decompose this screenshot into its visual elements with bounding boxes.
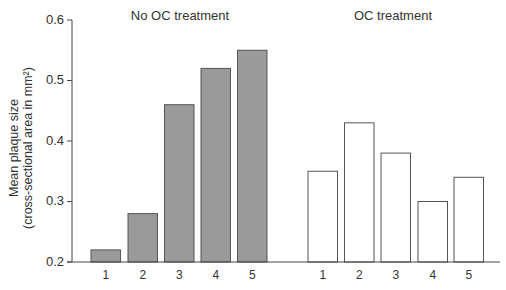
x-category-label: 5 bbox=[465, 268, 472, 282]
bar-no-oc-2 bbox=[128, 214, 158, 262]
plot-area bbox=[0, 0, 506, 290]
bar-oc-2 bbox=[345, 123, 375, 262]
x-category-label: 2 bbox=[139, 268, 146, 282]
x-category-label: 4 bbox=[212, 268, 219, 282]
x-category-label: 1 bbox=[102, 268, 109, 282]
bar-oc-5 bbox=[454, 177, 484, 262]
x-category-label: 3 bbox=[176, 268, 183, 282]
bar-no-oc-3 bbox=[165, 105, 195, 262]
bar-oc-4 bbox=[418, 202, 448, 263]
bar-no-oc-4 bbox=[201, 68, 231, 262]
bar-no-oc-5 bbox=[238, 50, 268, 262]
x-category-label: 4 bbox=[429, 268, 436, 282]
bar-oc-3 bbox=[381, 153, 411, 262]
x-category-label: 2 bbox=[356, 268, 363, 282]
x-category-label: 5 bbox=[249, 268, 256, 282]
x-category-label: 3 bbox=[392, 268, 399, 282]
bars-group bbox=[91, 50, 484, 262]
x-category-label: 1 bbox=[319, 268, 326, 282]
bar-no-oc-1 bbox=[91, 250, 121, 262]
bar-oc-1 bbox=[308, 171, 338, 262]
